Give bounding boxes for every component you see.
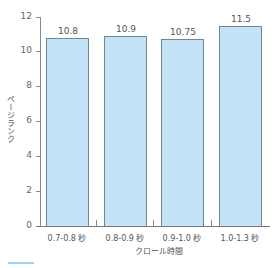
bar-value-label: 10.75 — [158, 27, 208, 37]
y-tick — [36, 17, 41, 18]
bar-value-label: 10.9 — [101, 24, 151, 34]
bar-1.0-1.3 — [219, 26, 262, 226]
y-tick — [36, 121, 41, 122]
bar-0.7-0.8 — [46, 38, 89, 226]
bar-value-label: 11.5 — [216, 14, 266, 24]
bar-value-label: 10.8 — [43, 26, 93, 36]
y-tick-label: 10 — [18, 45, 32, 55]
legend-swatch — [8, 262, 34, 264]
y-tick — [36, 86, 41, 87]
x-tick — [96, 220, 97, 226]
y-tick-label: 4 — [18, 150, 32, 160]
y-tick-label: 8 — [18, 80, 32, 90]
x-axis-label: クロール時間 — [124, 245, 194, 256]
bar-chart: ページランク 0 2 4 6 8 10 12 10.8 10.9 10.75 1… — [0, 0, 276, 268]
y-tick-label: 2 — [18, 185, 32, 195]
y-tick-label: 12 — [18, 11, 32, 21]
y-tick-label: 6 — [18, 115, 32, 125]
y-tick-label: 0 — [18, 220, 32, 230]
bar-0.9-1.0 — [161, 39, 204, 226]
x-category-label: 0.8-0.9 秒 — [96, 232, 154, 243]
bar-0.8-0.9 — [104, 36, 147, 226]
x-category-label: 0.9-1.0 秒 — [153, 232, 211, 243]
x-axis — [36, 226, 270, 227]
x-category-label: 1.0-1.3 秒 — [211, 232, 269, 243]
x-tick — [211, 220, 212, 226]
y-tick — [36, 51, 41, 52]
x-tick — [153, 220, 154, 226]
x-category-label: 0.7-0.8 秒 — [38, 232, 96, 243]
y-tick — [36, 156, 41, 157]
y-tick — [36, 191, 41, 192]
y-axis-label: ページランク — [4, 95, 15, 143]
